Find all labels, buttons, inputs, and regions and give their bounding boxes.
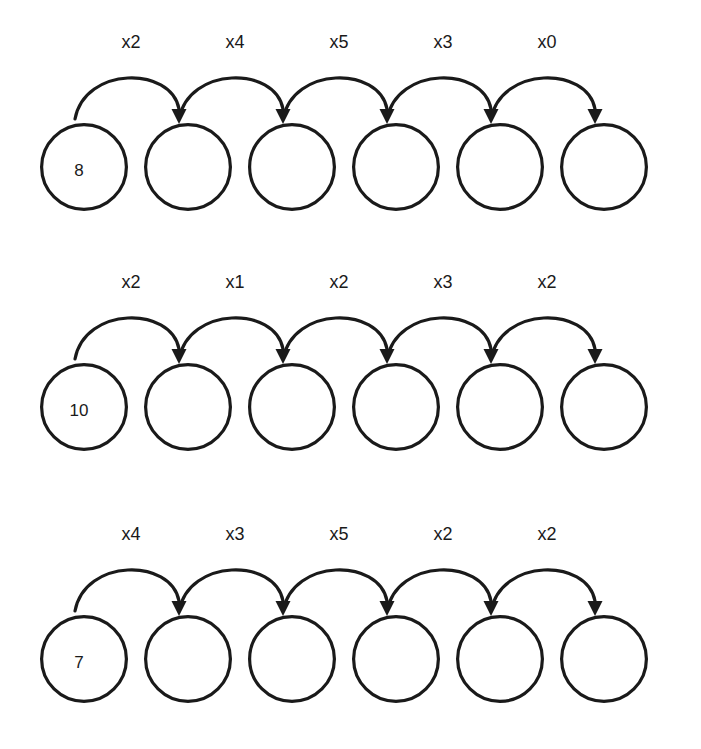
arrow-operation-label: x3 — [433, 32, 452, 52]
start-value-circle[interactable]: 7 — [42, 617, 127, 702]
arrowhead-icon — [588, 601, 603, 616]
answer-circle[interactable] — [146, 125, 231, 210]
chain-arrow: x2 — [387, 524, 499, 616]
arrow-operation-label: x2 — [329, 272, 348, 292]
answer-circle[interactable] — [562, 365, 647, 450]
chain-row: x2x1x2x3x210 — [0, 258, 701, 478]
chain-row-svg: x4x3x5x2x27 — [0, 510, 701, 730]
answer-circle[interactable] — [354, 125, 439, 210]
circle-value: 10 — [70, 401, 89, 420]
answer-circle[interactable] — [146, 617, 231, 702]
chain-arrow: x3 — [387, 272, 499, 364]
arrow-arc — [387, 318, 491, 359]
chain-arrow: x3 — [179, 524, 291, 616]
circle-outline[interactable] — [42, 617, 127, 702]
arrowhead-icon — [588, 109, 603, 124]
arrow-operation-label: x2 — [121, 32, 140, 52]
arrow-arc — [179, 570, 283, 611]
circle-outline[interactable] — [354, 365, 439, 450]
chain-arrow: x2 — [491, 524, 603, 616]
arrow-arc — [283, 78, 387, 119]
arrow-operation-label: x3 — [225, 524, 244, 544]
arrow-operation-label: x4 — [121, 524, 140, 544]
arrow-operation-label: x5 — [329, 524, 348, 544]
worksheet-canvas: x2x4x5x3x08x2x1x2x3x210x4x3x5x2x27 — [0, 0, 701, 749]
arrow-arc — [75, 318, 179, 359]
arrowhead-icon — [588, 349, 603, 364]
start-value-circle[interactable]: 10 — [42, 365, 127, 450]
circle-outline[interactable] — [458, 125, 543, 210]
chain-arrow: x2 — [283, 272, 395, 364]
arrow-operation-label: x2 — [433, 524, 452, 544]
circle-outline[interactable] — [250, 125, 335, 210]
answer-circle[interactable] — [562, 125, 647, 210]
circle-outline[interactable] — [354, 617, 439, 702]
arrow-operation-label: x4 — [225, 32, 244, 52]
answer-circle[interactable] — [146, 365, 231, 450]
chain-arrow: x4 — [75, 524, 187, 616]
circle-outline[interactable] — [250, 617, 335, 702]
answer-circle[interactable] — [458, 365, 543, 450]
arrow-arc — [491, 78, 595, 119]
answer-circle[interactable] — [458, 617, 543, 702]
circle-outline[interactable] — [250, 365, 335, 450]
chain-arrow: x2 — [491, 272, 603, 364]
chain-arrow: x3 — [387, 32, 499, 124]
arrow-arc — [491, 570, 595, 611]
answer-circle[interactable] — [354, 617, 439, 702]
answer-circle[interactable] — [354, 365, 439, 450]
arrow-arc — [179, 78, 283, 119]
answer-circle[interactable] — [250, 617, 335, 702]
arrow-arc — [283, 570, 387, 611]
chain-row-svg: x2x4x5x3x08 — [0, 18, 701, 238]
circle-outline[interactable] — [562, 125, 647, 210]
chain-arrow: x0 — [491, 32, 603, 124]
arrow-operation-label: x2 — [537, 272, 556, 292]
answer-circle[interactable] — [250, 365, 335, 450]
circle-outline[interactable] — [562, 365, 647, 450]
arrow-arc — [179, 318, 283, 359]
chain-arrow: x1 — [179, 272, 291, 364]
arrow-arc — [387, 78, 491, 119]
chain-row: x4x3x5x2x27 — [0, 510, 701, 730]
circle-outline[interactable] — [146, 365, 231, 450]
arrow-arc — [75, 78, 179, 119]
chain-arrow: x5 — [283, 32, 395, 124]
arrow-operation-label: x1 — [225, 272, 244, 292]
circle-outline[interactable] — [354, 125, 439, 210]
circle-value: 7 — [74, 653, 83, 672]
answer-circle[interactable] — [562, 617, 647, 702]
arrow-operation-label: x2 — [121, 272, 140, 292]
arrow-operation-label: x2 — [537, 524, 556, 544]
arrow-operation-label: x3 — [433, 272, 452, 292]
chain-arrow: x2 — [75, 272, 187, 364]
circle-outline[interactable] — [42, 125, 127, 210]
arrow-arc — [491, 318, 595, 359]
arrow-arc — [75, 570, 179, 611]
circle-outline[interactable] — [562, 617, 647, 702]
circle-outline[interactable] — [146, 125, 231, 210]
chain-arrow: x5 — [283, 524, 395, 616]
circle-value: 8 — [74, 161, 83, 180]
arrow-arc — [283, 318, 387, 359]
start-value-circle[interactable]: 8 — [42, 125, 127, 210]
chain-arrow: x2 — [75, 32, 187, 124]
circle-outline[interactable] — [146, 617, 231, 702]
chain-row-svg: x2x1x2x3x210 — [0, 258, 701, 478]
chain-arrow: x4 — [179, 32, 291, 124]
answer-circle[interactable] — [250, 125, 335, 210]
circle-outline[interactable] — [458, 365, 543, 450]
answer-circle[interactable] — [458, 125, 543, 210]
arrow-operation-label: x0 — [537, 32, 556, 52]
circle-outline[interactable] — [458, 617, 543, 702]
chain-row: x2x4x5x3x08 — [0, 18, 701, 238]
arrow-arc — [387, 570, 491, 611]
arrow-operation-label: x5 — [329, 32, 348, 52]
